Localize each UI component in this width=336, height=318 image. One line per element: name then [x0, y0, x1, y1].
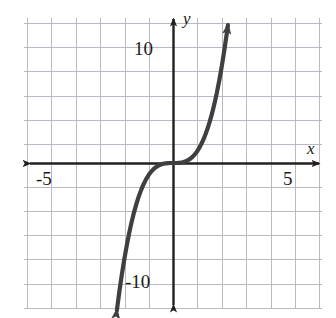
- x-tick-label-5: 5: [283, 169, 293, 188]
- x-tick-label-neg5: -5: [36, 169, 52, 188]
- graph-figure: 10 -10 5 -5 y x: [0, 0, 336, 318]
- y-tick-label-10: 10: [134, 39, 153, 58]
- y-tick-label-neg10: -10: [125, 272, 150, 291]
- x-axis-label: x: [307, 140, 315, 157]
- cartesian-plot: [0, 0, 336, 318]
- y-axis-label: y: [183, 10, 191, 27]
